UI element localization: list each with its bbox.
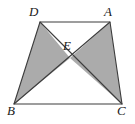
geometry-figure: D A E B C xyxy=(0,0,135,124)
geometry-diagram-canvas xyxy=(0,0,135,124)
vertex-label-d: D xyxy=(29,5,38,18)
vertex-label-c: C xyxy=(117,104,126,117)
vertex-label-a: A xyxy=(104,5,112,18)
vertex-label-e: E xyxy=(63,39,71,52)
vertex-label-b: B xyxy=(7,104,15,117)
